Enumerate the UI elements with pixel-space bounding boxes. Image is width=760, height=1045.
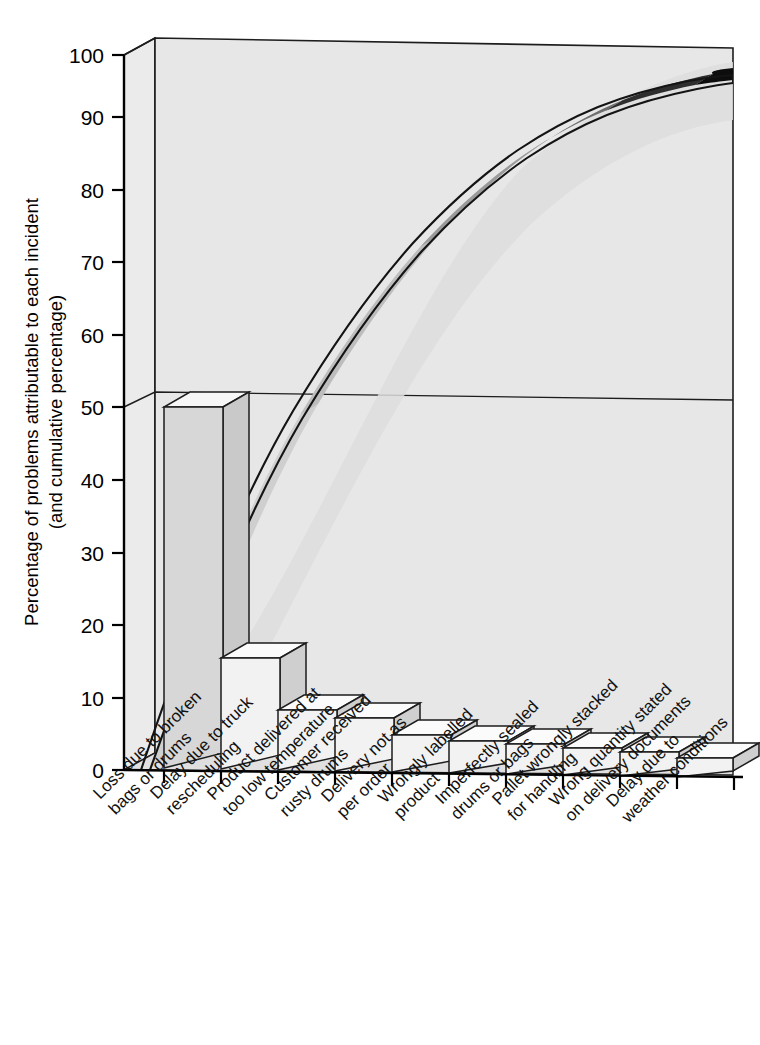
pareto-chart: 0 10 20 30 40 50 60 70 80 90 100 Percent… <box>0 0 760 1045</box>
y-tick-label: 50 <box>81 396 104 419</box>
y-tick-label: 30 <box>81 542 104 565</box>
y-tick-label: 10 <box>81 687 104 710</box>
y-tick-label: 20 <box>81 614 104 637</box>
y-tick-label: 90 <box>81 106 104 129</box>
y-tick-label: 100 <box>69 44 104 67</box>
y-axis-title-line1: Percentage of problems attributable to e… <box>21 198 42 626</box>
y-tick-label: 40 <box>81 469 104 492</box>
y-tick-label: 80 <box>81 179 104 202</box>
y-tick-label: 70 <box>81 251 104 274</box>
y-tick-label: 60 <box>81 324 104 347</box>
pareto-chart-svg: 0 10 20 30 40 50 60 70 80 90 100 Percent… <box>0 0 760 1045</box>
y-axis-title-line2: (and cumulative percentage) <box>45 295 66 529</box>
